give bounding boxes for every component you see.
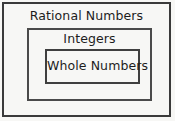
set-label-rational-numbers: Rational Numbers bbox=[4, 9, 169, 23]
set-box-integers: Integers Whole Numbers bbox=[27, 28, 152, 101]
set-label-whole-numbers: Whole Numbers bbox=[47, 59, 138, 73]
set-label-integers: Integers bbox=[29, 32, 150, 46]
set-box-whole-numbers: Whole Numbers bbox=[45, 49, 140, 84]
set-box-rational-numbers: Rational Numbers Integers Whole Numbers bbox=[2, 2, 171, 117]
nested-sets-diagram: Rational Numbers Integers Whole Numbers bbox=[0, 0, 175, 121]
